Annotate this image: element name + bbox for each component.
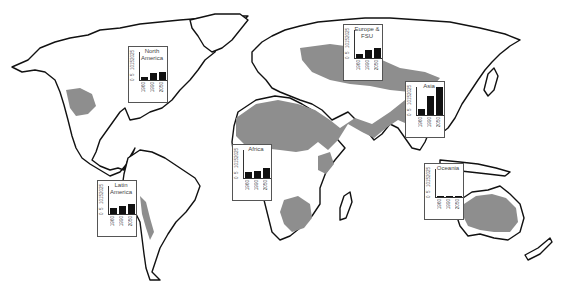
y-tick-label: 25 [234, 147, 239, 152]
x-axis-labels: 196019902050 [108, 216, 135, 234]
bar-2050 [263, 168, 270, 178]
y-tick-label: 0 [407, 113, 412, 116]
y-tick-label: 5 [130, 73, 135, 76]
y-tick-label: 25 [426, 166, 431, 171]
y-tick-label: 25 [99, 183, 104, 188]
x-tick-label: 2050 [374, 60, 379, 70]
x-tick-label: 1960 [437, 199, 442, 209]
bar-1960 [356, 54, 363, 58]
bar-1990 [119, 206, 126, 214]
x-tick-label: 1960 [418, 117, 423, 127]
inset-chart-north-america: NorthAmerica 0510152025 196019902050 [128, 46, 168, 103]
bar-1960 [418, 109, 425, 115]
y-tick-label: 10 [234, 163, 239, 168]
y-tick-label: 10 [407, 100, 412, 105]
bar-2050 [159, 72, 166, 80]
y-tick-label: 15 [345, 38, 350, 43]
x-axis-labels: 196019902050 [416, 117, 443, 135]
inset-chart-latin-america: LatinAmerica 0510152025 196019902050 [97, 180, 137, 237]
y-tick-label: 20 [99, 189, 104, 194]
y-tick-label: 5 [99, 207, 104, 210]
plot-area [139, 52, 167, 81]
bar-1990 [254, 171, 261, 178]
y-tick-label: 15 [234, 158, 239, 163]
x-tick-label: 1990 [365, 60, 370, 70]
x-axis-labels: 196019902050 [435, 199, 462, 217]
y-tick-label: 5 [426, 190, 431, 193]
y-tick-label: 15 [130, 60, 135, 65]
x-tick-label: 1990 [427, 117, 432, 127]
y-tick-label: 0 [130, 78, 135, 81]
x-tick-label: 1960 [245, 180, 250, 190]
y-tick-label: 25 [407, 84, 412, 89]
plot-area [108, 186, 136, 215]
x-tick-label: 1960 [110, 216, 115, 226]
plot-area [354, 30, 382, 59]
y-tick-label: 20 [345, 33, 350, 38]
y-tick-label: 10 [130, 65, 135, 70]
y-axis: 0510152025 [234, 149, 241, 179]
x-tick-label: 2050 [159, 82, 164, 92]
bar-1990 [446, 196, 453, 197]
world-map [0, 0, 566, 295]
y-tick-label: 0 [426, 195, 431, 198]
y-tick-label: 20 [407, 90, 412, 95]
x-tick-label: 1960 [356, 60, 361, 70]
y-tick-label: 25 [345, 27, 350, 32]
bar-1960 [110, 208, 117, 214]
y-axis: 0510152025 [345, 29, 352, 59]
y-axis: 0510152025 [426, 168, 433, 198]
y-tick-label: 15 [407, 95, 412, 100]
y-tick-label: 0 [345, 56, 350, 59]
bar-2050 [128, 204, 135, 214]
x-tick-label: 1990 [150, 82, 155, 92]
y-tick-label: 20 [130, 55, 135, 60]
x-tick-label: 2050 [455, 199, 460, 209]
x-tick-label: 1990 [254, 180, 259, 190]
bar-2050 [436, 87, 443, 115]
landmass-japan [484, 68, 498, 96]
inset-chart-europe-fsu: Europe &FSU 0510152025 196019902050 [343, 24, 383, 81]
x-tick-label: 2050 [128, 216, 133, 226]
bar-2050 [455, 196, 462, 197]
y-tick-label: 5 [407, 108, 412, 111]
bar-1990 [427, 96, 434, 115]
y-tick-label: 10 [426, 182, 431, 187]
inset-chart-oceania: Oceania 0510152025 196019902050 [424, 163, 464, 220]
x-axis-labels: 196019902050 [243, 180, 270, 198]
y-tick-label: 25 [130, 49, 135, 54]
y-axis: 0510152025 [407, 86, 414, 116]
y-tick-label: 0 [99, 212, 104, 215]
y-tick-label: 20 [234, 153, 239, 158]
y-tick-label: 0 [234, 176, 239, 179]
x-tick-label: 2050 [436, 117, 441, 127]
bar-2050 [374, 48, 381, 58]
y-tick-label: 15 [99, 194, 104, 199]
x-tick-label: 1960 [141, 82, 146, 92]
inset-chart-asia: Asia 0510152025 196019902050 [405, 81, 445, 138]
plot-area [416, 87, 444, 116]
plot-area [435, 169, 463, 198]
landmass-madagascar [340, 192, 352, 220]
y-tick-label: 20 [426, 172, 431, 177]
plot-area [243, 150, 271, 179]
x-axis-labels: 196019902050 [354, 60, 381, 78]
y-tick-label: 5 [234, 171, 239, 174]
y-tick-label: 15 [426, 177, 431, 182]
bar-1990 [150, 73, 157, 80]
bar-1960 [437, 196, 444, 197]
x-tick-label: 1990 [446, 199, 451, 209]
landmass-new-zealand [525, 238, 552, 260]
bar-1960 [245, 172, 252, 178]
y-axis: 0510152025 [99, 185, 106, 215]
y-axis: 0510152025 [130, 51, 137, 81]
x-axis-labels: 196019902050 [139, 82, 166, 100]
y-tick-label: 10 [99, 199, 104, 204]
inset-chart-africa: Africa 0510152025 196019902050 [232, 144, 272, 201]
x-tick-label: 1990 [119, 216, 124, 226]
bar-1990 [365, 50, 372, 58]
y-tick-label: 10 [345, 43, 350, 48]
bar-1960 [141, 77, 148, 80]
y-tick-label: 5 [345, 51, 350, 54]
x-tick-label: 2050 [263, 180, 268, 190]
